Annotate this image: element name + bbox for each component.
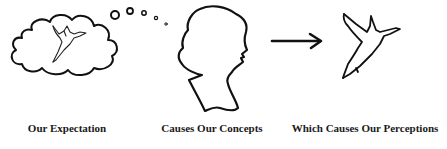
label-causes-our-concepts: Causes Our Concepts [161,122,262,134]
thought-bubbles-icon [111,8,167,25]
label-which-causes-our-perceptions: Which Causes Our Perceptions [292,122,439,134]
woman-head-silhouette-icon [179,6,247,111]
label-our-expectation: Our Expectation [28,122,106,134]
thought-cloud-icon [12,15,117,75]
hummingbird-in-cloud-icon [53,26,86,62]
right-arrow-icon [272,34,321,48]
hummingbird-icon [343,14,400,78]
diagram: Our Expectation Causes Our Concepts Whic… [0,0,447,149]
